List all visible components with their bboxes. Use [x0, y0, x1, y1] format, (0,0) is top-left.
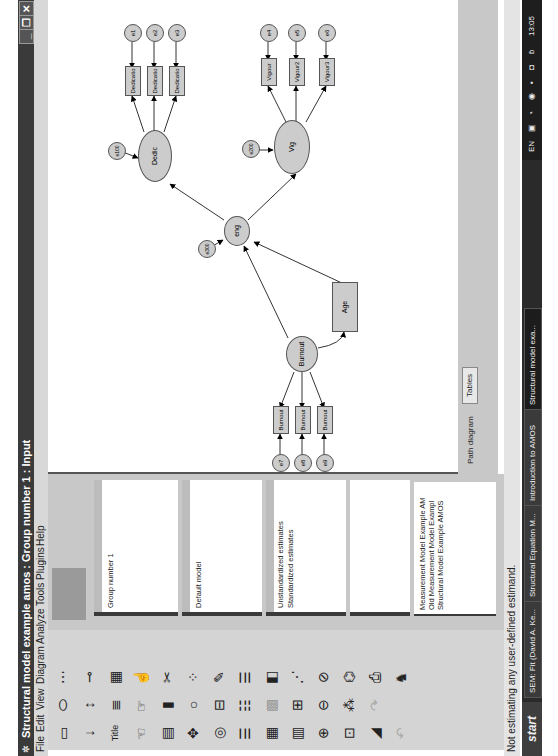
- draw-path-icon[interactable]: ↓: [78, 722, 100, 744]
- error-variable-e200[interactable]: e200: [242, 140, 260, 158]
- error-variable-e100[interactable]: e100: [108, 142, 126, 160]
- degrees-freedom-icon[interactable]: ♞: [390, 666, 412, 688]
- error-variable-e3[interactable]: e3: [168, 24, 186, 42]
- menu-help[interactable]: Help: [34, 525, 48, 546]
- error-variable-e1[interactable]: e1: [124, 24, 142, 42]
- copy-to-clipboard-icon[interactable]: ☷: [234, 694, 256, 716]
- redo-icon[interactable]: ↷: [364, 694, 386, 716]
- view-input-output-toggle[interactable]: [52, 568, 86, 620]
- restore-button[interactable]: ❐: [19, 15, 34, 30]
- select-all-objects-icon[interactable]: ☞: [130, 694, 152, 716]
- zoom-out-icon[interactable]: ⊖: [312, 694, 334, 716]
- observed-variable-dedication3[interactable]: Dedicatio: [169, 66, 185, 96]
- select-one-object-icon[interactable]: ☜: [130, 722, 152, 744]
- error-variable-e8[interactable]: e8: [294, 454, 312, 472]
- drag-properties-icon[interactable]: ◧: [260, 666, 282, 688]
- error-variable-e7[interactable]: e7: [272, 454, 290, 472]
- tray-icon[interactable]: ◉: [522, 93, 542, 100]
- menu-diagram[interactable]: Diagram: [34, 646, 48, 684]
- change-shape-icon[interactable]: ✥: [182, 722, 204, 744]
- path-diagram-canvas[interactable]: e7 e8 e9 Burnout Burnout Burnout Burnout…: [48, 0, 498, 474]
- observed-variable-burnout2[interactable]: Burnout: [295, 406, 311, 434]
- calculate-estimates-icon[interactable]: ▩: [260, 694, 282, 716]
- observed-variable-vigour1[interactable]: Vigour: [261, 58, 277, 86]
- output-list[interactable]: [350, 480, 410, 616]
- reflect-indicators-icon[interactable]: ◎: [208, 722, 230, 744]
- menu-file[interactable]: File: [34, 736, 48, 752]
- loupe-icon[interactable]: ⊘: [312, 666, 334, 688]
- latent-variable-eng[interactable]: eng: [224, 216, 250, 246]
- menu-tools[interactable]: Tools: [34, 583, 48, 606]
- specification-search-icon[interactable]: ◢: [364, 722, 386, 744]
- title-bar[interactable]: ✲ Structural model example amos : Group …: [18, 0, 34, 756]
- latent-variable-dedic[interactable]: Dedic: [138, 130, 172, 182]
- groups-list[interactable]: Group number 1: [94, 480, 178, 616]
- error-variable-e300[interactable]: e300: [198, 240, 216, 258]
- move-parameters-icon[interactable]: ⊟: [208, 694, 230, 716]
- multiple-group-icon[interactable]: ⁂: [338, 694, 360, 716]
- move-icon[interactable]: ▮: [156, 694, 178, 716]
- taskbar-item[interactable]: Introduction to AMOS: [524, 408, 542, 506]
- analysis-properties-icon[interactable]: ▦: [260, 722, 282, 744]
- file-item[interactable]: Structural Model Example AMOS: [436, 500, 445, 610]
- add-unique-variable-icon[interactable]: ⊸: [78, 666, 100, 688]
- start-button[interactable]: start: [522, 702, 542, 756]
- taskbar-item-active[interactable]: Structural model exa...: [524, 308, 542, 410]
- tab-tables[interactable]: Tables: [462, 367, 478, 404]
- latent-variable-burnout[interactable]: Burnout: [286, 336, 318, 372]
- deselect-all-icon[interactable]: ☝: [130, 666, 152, 688]
- duplicate-icon[interactable]: ▤: [156, 722, 178, 744]
- zoom-in-icon[interactable]: ⊕: [312, 722, 334, 744]
- language-indicator[interactable]: EN: [522, 141, 542, 152]
- observed-variable-age[interactable]: Age: [332, 282, 358, 332]
- latent-variable-vig[interactable]: Vig: [274, 120, 310, 174]
- touch-up-icon[interactable]: ✎: [208, 666, 230, 688]
- preserve-symmetries-icon[interactable]: ⋰: [286, 666, 308, 688]
- taskbar-item[interactable]: SEM: Fit (David A. Ke...: [524, 600, 542, 698]
- reposition-icon[interactable]: ⁘: [182, 666, 204, 688]
- standardized-estimates-item[interactable]: Standardized estimates: [286, 530, 295, 608]
- list-variables-in-dataset-icon[interactable]: ▦: [104, 666, 126, 688]
- list-variables-in-model-icon[interactable]: ≣: [104, 694, 126, 716]
- tray-icon[interactable]: ▣: [522, 124, 542, 132]
- draw-covariance-icon[interactable]: ↕: [78, 694, 100, 716]
- data-files-icon[interactable]: ☰: [234, 722, 256, 744]
- draw-observed-variable-icon[interactable]: ▭: [52, 722, 74, 744]
- observed-variable-dedication2[interactable]: Dedicatio: [147, 66, 163, 96]
- taskbar-item[interactable]: Structural Equation M...: [524, 504, 542, 602]
- observed-variable-burnout3[interactable]: Burnout: [317, 406, 333, 434]
- observed-variable-vigour3[interactable]: Vigour3: [319, 58, 335, 86]
- print-icon[interactable]: ⎙: [364, 666, 386, 688]
- menu-plugins[interactable]: Plugins: [34, 547, 48, 580]
- error-variable-e5[interactable]: e5: [288, 24, 306, 42]
- estimates-list[interactable]: Unstandardized estimates Standardized es…: [266, 480, 346, 616]
- object-properties-icon[interactable]: ⊞: [286, 694, 308, 716]
- menu-edit[interactable]: Edit: [34, 715, 48, 732]
- file-item[interactable]: Old Measurement Model Exampl: [427, 501, 436, 610]
- file-item[interactable]: Measurement Model Example AM: [418, 497, 427, 610]
- view-text-icon[interactable]: ▥: [286, 722, 308, 744]
- close-button[interactable]: ✕: [19, 1, 34, 16]
- menu-analyze[interactable]: Analyze: [34, 608, 48, 644]
- group-item[interactable]: Group number 1: [106, 553, 115, 608]
- model-item[interactable]: Default model: [194, 562, 203, 608]
- tray-icon[interactable]: ◔: [522, 111, 542, 116]
- figure-caption-icon[interactable]: Title: [104, 722, 126, 744]
- error-variable-e6[interactable]: e6: [318, 24, 336, 42]
- tray-icon[interactable]: ◘: [522, 65, 542, 70]
- observed-variable-burnout1[interactable]: Burnout: [273, 406, 289, 434]
- tray-icon[interactable]: ɓ: [522, 50, 542, 54]
- unstandardized-estimates-item[interactable]: Unstandardized estimates: [276, 521, 285, 608]
- error-variable-e9[interactable]: e9: [316, 454, 334, 472]
- error-variable-e2[interactable]: e2: [146, 24, 164, 42]
- tray-icon[interactable]: ▪: [522, 81, 542, 84]
- minimize-button[interactable]: _: [19, 29, 34, 44]
- observed-variable-vigour2[interactable]: Vigour2: [289, 58, 305, 86]
- observed-variable-dedication1[interactable]: Dedicatio: [125, 66, 141, 96]
- draw-unobserved-variable-icon[interactable]: ⬭: [52, 694, 74, 716]
- tab-path-diagram[interactable]: Path diagram: [464, 410, 478, 470]
- erase-icon[interactable]: ✂: [156, 666, 178, 688]
- menu-view[interactable]: View: [34, 689, 48, 711]
- undo-icon[interactable]: ↶: [390, 722, 412, 744]
- bayesian-icon[interactable]: ⌬: [338, 666, 360, 688]
